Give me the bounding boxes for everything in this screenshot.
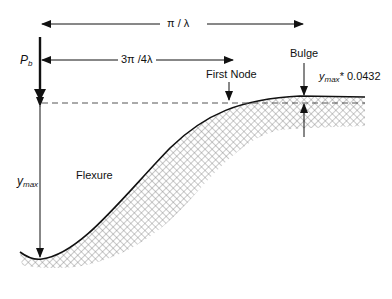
flexure-diagram — [0, 0, 392, 299]
bulge-height-label: ymax* 0.0432 — [319, 71, 381, 84]
wavelength-label: π / λ — [167, 18, 189, 29]
load-label: Pb — [20, 54, 32, 68]
first-node-distance-label: 3π /4λ — [121, 54, 152, 65]
lithosphere-hatch — [20, 96, 365, 268]
flexure-label: Flexure — [76, 170, 113, 181]
ymax-label: ymax — [17, 175, 38, 189]
bulge-label: Bulge — [290, 48, 318, 59]
first-node-label: First Node — [206, 69, 257, 80]
